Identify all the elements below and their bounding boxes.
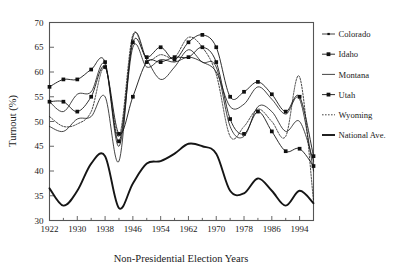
data-point-marker <box>242 132 246 136</box>
data-point-marker <box>242 90 246 94</box>
x-tick-label: 1978 <box>235 224 254 234</box>
x-tick-label: 1970 <box>207 224 226 234</box>
data-point-marker <box>145 60 149 64</box>
data-point-marker <box>62 100 66 104</box>
y-tick-label: 70 <box>35 18 45 28</box>
data-point-marker <box>62 78 66 82</box>
x-tick-label: 1986 <box>263 224 282 234</box>
turnout-line-chart-figure: 1922193019381946195419621970197819861994… <box>0 0 408 272</box>
y-tick-label: 40 <box>35 166 45 176</box>
data-point-marker <box>270 130 274 134</box>
y-tick-label: 55 <box>35 92 45 102</box>
data-point-marker <box>159 45 163 49</box>
data-point-marker <box>256 80 260 84</box>
data-point-marker <box>75 78 79 82</box>
x-tick-label: 1962 <box>179 224 197 234</box>
x-tick-label: 1954 <box>152 224 171 234</box>
data-point-marker <box>89 95 93 99</box>
x-tick-label: 1930 <box>68 224 87 234</box>
y-tick-label: 50 <box>35 117 45 127</box>
data-point-marker <box>48 85 52 89</box>
data-point-marker <box>270 92 274 96</box>
legend-marker-swatch <box>327 52 331 56</box>
data-point-marker <box>131 95 135 99</box>
data-point-marker <box>298 95 302 99</box>
data-point-marker <box>187 40 191 44</box>
data-point-marker <box>214 60 218 64</box>
data-point-marker <box>75 110 79 114</box>
y-tick-label: 45 <box>35 141 45 151</box>
data-point-marker <box>256 110 260 114</box>
legend-item-label: Wyoming <box>339 110 374 120</box>
data-point-marker <box>214 45 218 49</box>
x-tick-label: 1994 <box>291 224 310 234</box>
legend-item-label: Colorado <box>339 29 371 39</box>
data-point-marker <box>284 149 288 153</box>
data-point-marker <box>159 60 163 64</box>
y-tick-label: 30 <box>35 216 45 226</box>
x-tick-label: 1946 <box>124 224 143 234</box>
data-point-marker <box>200 33 204 37</box>
y-tick-label: 65 <box>35 42 45 52</box>
chart-svg: 1922193019381946195419621970197819861994… <box>0 0 408 272</box>
legend-item-label: National Ave. <box>339 130 386 140</box>
x-tick-label: 1938 <box>96 224 115 234</box>
data-point-marker <box>228 95 232 99</box>
data-point-marker <box>187 55 191 59</box>
data-point-marker <box>89 68 93 72</box>
legend-item-label: Idaho <box>339 49 359 59</box>
y-tick-label: 35 <box>35 191 45 201</box>
data-point-marker <box>48 100 52 104</box>
y-axis-tick-labels: 303540455055606570 <box>35 18 45 226</box>
x-axis-title: Non-Presidential Election Years <box>114 253 248 264</box>
legend-marker-swatch <box>327 33 329 35</box>
y-tick-label: 60 <box>35 67 45 77</box>
legend-marker-swatch <box>327 93 331 97</box>
data-point-marker <box>312 164 316 168</box>
legend-item-label: Utah <box>339 90 356 100</box>
legend-item-label: Montana <box>339 70 370 80</box>
data-point-marker <box>298 147 302 151</box>
y-axis-title: Turnout (%) <box>7 95 19 147</box>
data-point-marker <box>312 154 316 158</box>
data-point-marker <box>228 117 232 121</box>
